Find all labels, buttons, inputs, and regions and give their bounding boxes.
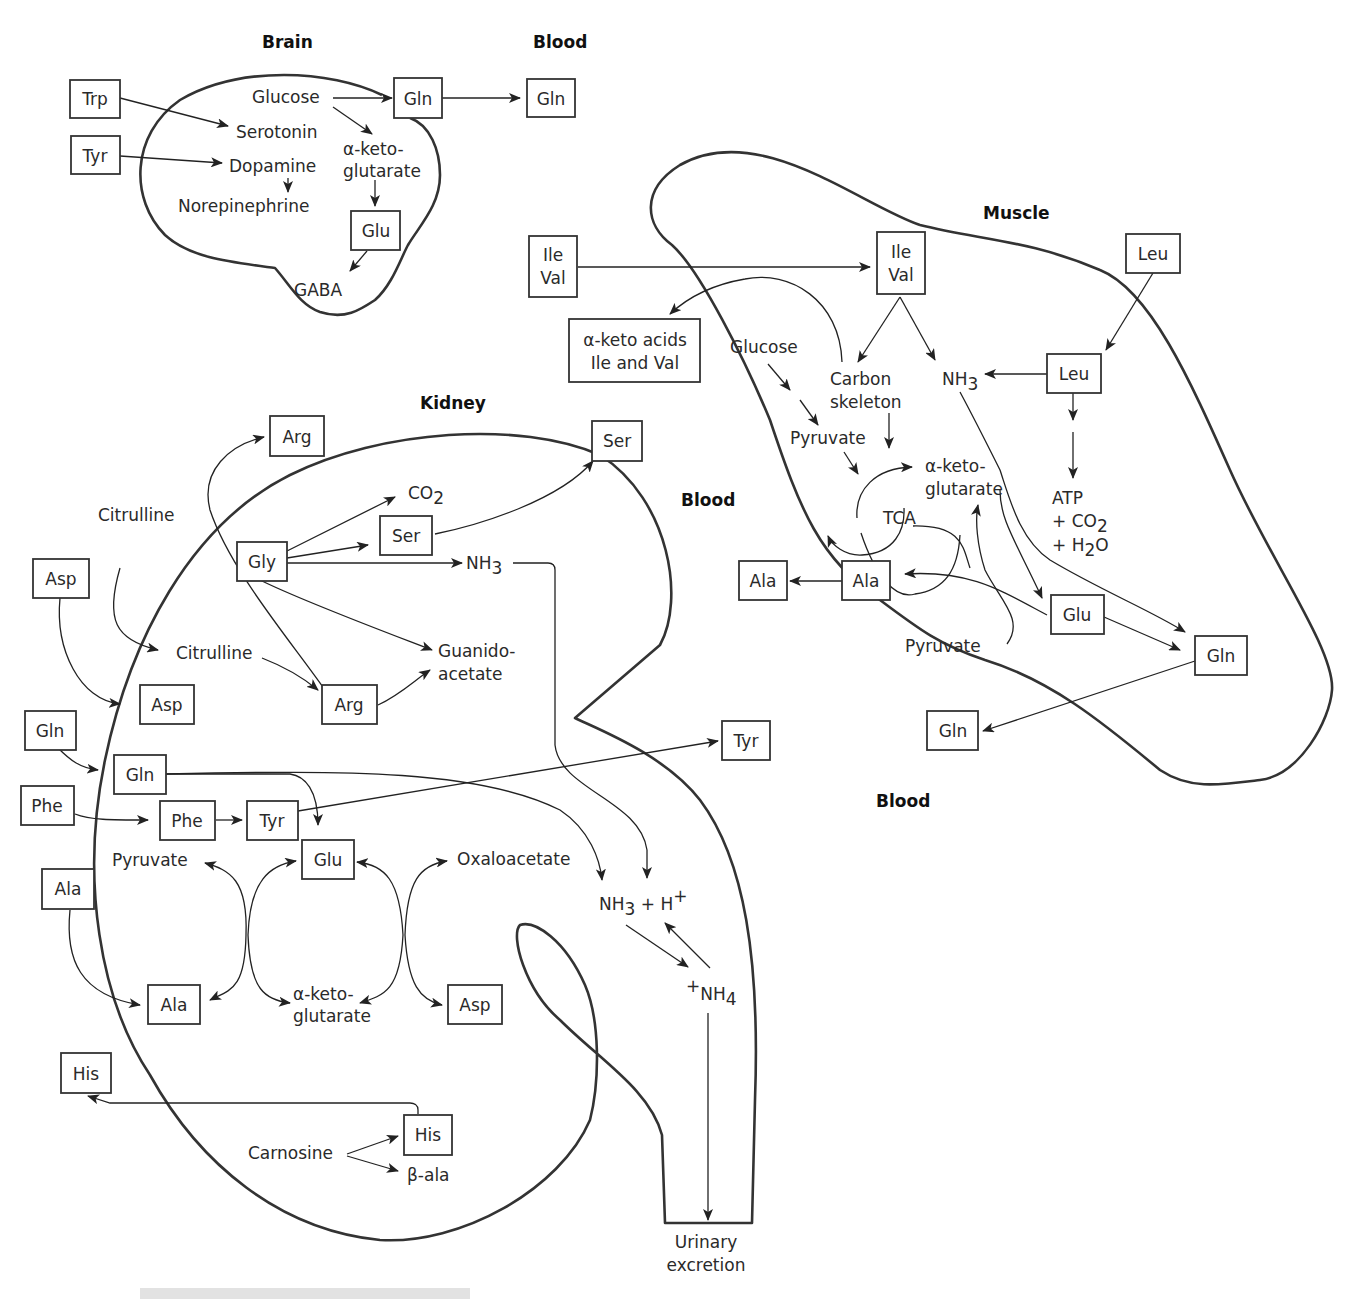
region-label-muscle: Muscle (983, 203, 1050, 223)
muscle-atp: ATP (1052, 488, 1083, 508)
svg-text:Gln: Gln (939, 721, 968, 741)
muscle-pyruvate-top: Pyruvate (790, 428, 866, 448)
urinary-excretion-line1: Urinary (675, 1232, 737, 1252)
svg-text:Gly: Gly (248, 552, 276, 572)
svg-text:Ile: Ile (543, 245, 563, 265)
svg-text:Gln: Gln (36, 721, 65, 741)
muscle-glucose: Glucose (730, 337, 798, 357)
blood-box-gln-top: Gln (527, 79, 575, 117)
brain-serotonin: Serotonin (236, 122, 318, 142)
svg-text:His: His (73, 1064, 100, 1084)
muscle-akg-line1: α-keto- (925, 456, 986, 476)
region-label-brain: Brain (262, 32, 313, 52)
svg-text:Ile: Ile (891, 242, 911, 262)
brain-glucose: Glucose (252, 87, 320, 107)
kidney-box-ser: Ser (380, 516, 432, 555)
muscle-akg-line2: glutarate (925, 479, 1003, 499)
region-label-blood-top: Blood (533, 32, 587, 52)
muscle-box-glu: Glu (1051, 595, 1104, 634)
muscle-carbon-line1: Carbon (830, 369, 891, 389)
svg-text:Phe: Phe (31, 796, 63, 816)
svg-text:Glu: Glu (1063, 605, 1092, 625)
svg-text:Tyr: Tyr (259, 811, 285, 831)
svg-text:His: His (415, 1125, 442, 1145)
kidney-co2: CO2 (408, 483, 444, 508)
blood-box-his: His (61, 1053, 111, 1093)
svg-text:Val: Val (540, 268, 565, 288)
region-label-blood-bottom: Blood (876, 791, 930, 811)
region-label-kidney: Kidney (420, 393, 486, 413)
kidney-box-his: His (404, 1115, 452, 1155)
blood-box-arg: Arg (270, 416, 324, 456)
blood-citrulline: Citrulline (98, 505, 174, 525)
svg-text:Ala: Ala (853, 571, 880, 591)
kidney-box-tyr: Tyr (247, 801, 298, 840)
svg-text:Phe: Phe (171, 811, 203, 831)
svg-text:Ser: Ser (603, 431, 631, 451)
kidney-akg-line1: α-keto- (293, 984, 354, 1004)
brain-gaba: GABA (294, 280, 342, 300)
svg-text:Gln: Gln (537, 89, 566, 109)
muscle-box-leu: Leu (1047, 354, 1101, 393)
brain-box-trp: Trp (70, 80, 120, 118)
muscle-nh3: NH3 (942, 369, 978, 394)
blood-box-tyr-kidney: Tyr (722, 721, 770, 760)
blood-box-ile-val: Ile Val (529, 236, 577, 297)
svg-text:Ala: Ala (161, 995, 188, 1015)
kidney-box-asp: Asp (140, 685, 194, 724)
muscle-tca: TCA (882, 508, 916, 528)
svg-text:Asp: Asp (459, 995, 490, 1015)
kidney-box-gln: Gln (114, 755, 166, 794)
muscle-outline (651, 152, 1332, 784)
svg-text:α-keto acids: α-keto acids (583, 330, 687, 350)
kidney-nh3: NH3 (466, 553, 502, 578)
svg-text:Tyr: Tyr (82, 146, 108, 166)
kidney-nh4: +NH4 (686, 976, 737, 1009)
amino-acid-metabolism-diagram: Brain Blood Muscle Kidney Blood Blood Tr… (0, 0, 1360, 1299)
blood-box-leu: Leu (1126, 234, 1180, 273)
blood-box-ser: Ser (592, 421, 642, 461)
muscle-co2: + CO2 (1052, 511, 1108, 536)
blood-box-keto-acids: α-keto acids Ile and Val (569, 319, 700, 382)
kidney-box-arg: Arg (322, 685, 377, 724)
muscle-pyruvate-bottom: Pyruvate (905, 636, 981, 656)
svg-text:Asp: Asp (151, 695, 182, 715)
svg-text:Leu: Leu (1059, 364, 1089, 384)
svg-text:Ala: Ala (55, 879, 82, 899)
blood-box-asp: Asp (33, 559, 89, 598)
kidney-oxaloacetate: Oxaloacetate (457, 849, 570, 869)
kidney-pyruvate: Pyruvate (112, 850, 188, 870)
kidney-guanido-line1: Guanido- (438, 641, 516, 661)
brain-dopamine: Dopamine (229, 156, 316, 176)
svg-text:Asp: Asp (45, 569, 76, 589)
svg-text:Trp: Trp (81, 89, 108, 109)
brain-box-gln: Gln (394, 78, 442, 118)
kidney-box-asp-product: Asp (448, 985, 502, 1024)
kidney-guanido-line2: acetate (438, 664, 502, 684)
urinary-excretion-line2: excretion (667, 1255, 746, 1275)
svg-text:Tyr: Tyr (733, 731, 759, 751)
kidney-box-glu: Glu (302, 840, 354, 879)
muscle-h2o: + H2O (1052, 535, 1109, 560)
brain-box-glu: Glu (351, 211, 400, 250)
kidney-citrulline: Citrulline (176, 643, 252, 663)
scan-shadow (140, 1288, 470, 1299)
kidney-box-ala: Ala (148, 985, 200, 1024)
svg-text:Ala: Ala (750, 571, 777, 591)
svg-text:Gln: Gln (126, 765, 155, 785)
blood-box-gln-kidney: Gln (25, 711, 76, 750)
kidney-carnosine: Carnosine (248, 1143, 333, 1163)
svg-text:Gln: Gln (404, 89, 433, 109)
blood-box-gln-muscle: Gln (927, 711, 978, 750)
brain-akg-line1: α-keto- (343, 139, 404, 159)
svg-text:Ile and Val: Ile and Val (591, 353, 679, 373)
svg-text:Gln: Gln (1207, 646, 1236, 666)
svg-text:Val: Val (888, 265, 913, 285)
muscle-box-gln: Gln (1195, 636, 1247, 675)
kidney-nh3-h: NH3 + H+ (599, 886, 687, 919)
kidney-box-phe: Phe (160, 801, 215, 840)
blood-box-ala-muscle: Ala (739, 561, 787, 600)
muscle-carbon-line2: skeleton (830, 392, 902, 412)
svg-text:Glu: Glu (314, 850, 343, 870)
brain-norepinephrine: Norepinephrine (178, 196, 309, 216)
